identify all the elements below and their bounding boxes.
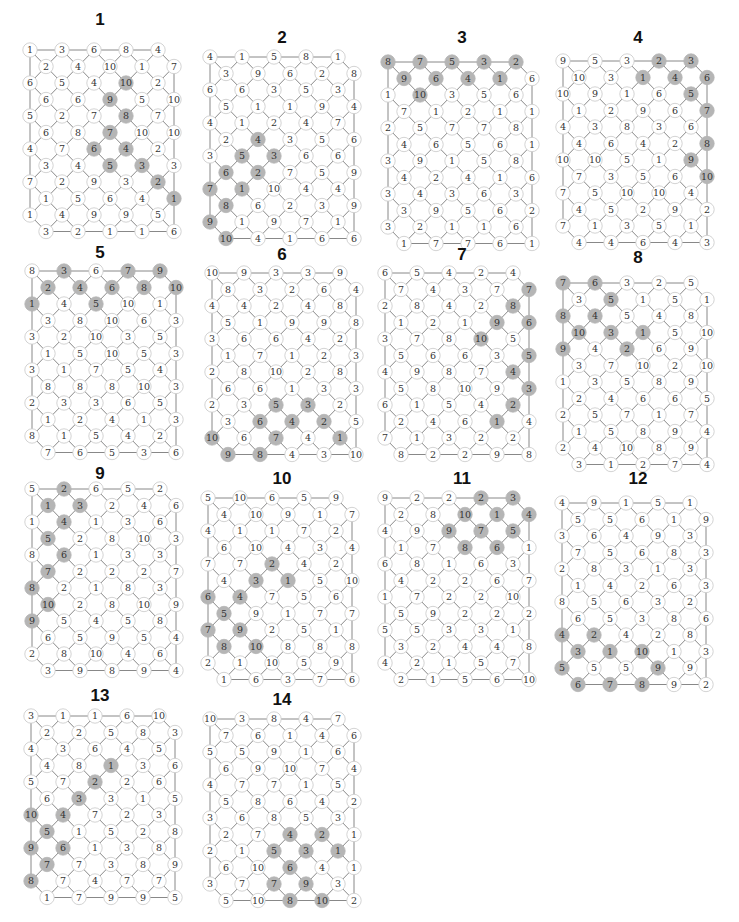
node-number: 4 [351, 763, 357, 774]
grid-node[interactable]: 6 [219, 860, 233, 874]
grid-node[interactable]: 1 [299, 745, 313, 759]
node-number: 1 [335, 845, 341, 856]
node-number: 8 [271, 812, 277, 823]
node-number: 5 [271, 845, 277, 856]
node-number: 10 [252, 895, 264, 906]
grid-node[interactable]: 3 [203, 811, 217, 825]
grid-node[interactable]: 3 [331, 877, 345, 891]
grid-node[interactable]: 8 [251, 794, 265, 808]
grid-node[interactable]: 9 [267, 745, 281, 759]
path-node-shaded[interactable]: 4 [283, 827, 297, 841]
grid-node[interactable]: 1 [347, 860, 361, 874]
grid-node[interactable]: 3 [331, 811, 345, 825]
grid-node[interactable]: 7 [331, 712, 345, 726]
puzzle-grid: 1038477614655916691074477155864236853274… [0, 0, 739, 922]
grid-node[interactable]: 1 [235, 844, 249, 858]
node-number: 2 [223, 829, 229, 840]
node-number: 8 [255, 796, 261, 807]
grid-node[interactable]: 10 [251, 860, 265, 874]
grid-node[interactable]: 6 [331, 745, 345, 759]
node-number: 6 [223, 862, 229, 873]
grid-node[interactable]: 6 [235, 811, 249, 825]
grid-node[interactable]: 1 [347, 827, 361, 841]
grid-node[interactable]: 4 [347, 761, 361, 775]
node-number: 5 [223, 895, 229, 906]
node-number: 6 [335, 746, 341, 757]
grid-node[interactable]: 3 [235, 712, 249, 726]
node-number: 1 [351, 862, 357, 873]
path-node-shaded[interactable]: 10 [315, 893, 329, 907]
grid-node[interactable]: 5 [331, 778, 345, 792]
grid-node[interactable]: 8 [267, 712, 281, 726]
grid-node[interactable]: 4 [315, 794, 329, 808]
node-number: 3 [207, 812, 213, 823]
path-node-shaded[interactable]: 7 [267, 877, 281, 891]
grid-node[interactable]: 6 [251, 728, 265, 742]
node-number: 7 [239, 878, 245, 889]
path-node-shaded[interactable]: 3 [299, 844, 313, 858]
node-number: 2 [319, 829, 325, 840]
node-number: 7 [271, 779, 277, 790]
grid-node[interactable]: 6 [219, 761, 233, 775]
node-number: 6 [351, 730, 357, 741]
grid-node[interactable]: 7 [235, 877, 249, 891]
grid-node[interactable]: 7 [219, 728, 233, 742]
grid-node[interactable]: 5 [219, 794, 233, 808]
grid-node[interactable]: 6 [283, 794, 297, 808]
node-number: 1 [303, 779, 309, 790]
node-number: 9 [255, 763, 261, 774]
node-number: 3 [239, 713, 245, 724]
node-number: 5 [239, 746, 245, 757]
grid-node[interactable]: 5 [299, 811, 313, 825]
node-number: 4 [207, 779, 213, 790]
grid-edges [210, 719, 354, 901]
grid-node[interactable]: 7 [267, 778, 281, 792]
path-node-shaded[interactable]: 9 [299, 877, 313, 891]
node-number: 4 [287, 829, 293, 840]
node-number: 7 [271, 878, 277, 889]
grid-node[interactable]: 4 [299, 712, 313, 726]
node-number: 10 [204, 713, 216, 724]
node-number: 1 [239, 845, 245, 856]
grid-node[interactable]: 5 [235, 745, 249, 759]
grid-node[interactable]: 10 [251, 893, 265, 907]
node-number: 6 [239, 812, 245, 823]
node-number: 7 [335, 713, 341, 724]
grid-node[interactable]: 2 [219, 827, 233, 841]
node-number: 10 [316, 895, 328, 906]
node-number: 6 [255, 730, 261, 741]
grid-node[interactable]: 7 [315, 761, 329, 775]
grid-node[interactable]: 1 [283, 728, 297, 742]
grid-node[interactable]: 10 [203, 712, 217, 726]
grid-node[interactable]: 5 [219, 893, 233, 907]
node-number: 4 [319, 796, 325, 807]
node-number: 9 [303, 878, 309, 889]
node-number: 3 [207, 878, 213, 889]
grid-node[interactable]: 2 [203, 844, 217, 858]
grid-node[interactable]: 9 [251, 761, 265, 775]
path-node-shaded[interactable]: 5 [267, 844, 281, 858]
grid-node[interactable]: 4 [315, 728, 329, 742]
grid-node[interactable]: 6 [347, 728, 361, 742]
grid-node[interactable]: 2 [347, 893, 361, 907]
grid-node[interactable]: 7 [251, 827, 265, 841]
grid-node[interactable]: 10 [283, 761, 297, 775]
grid-node[interactable]: 5 [203, 745, 217, 759]
grid-node[interactable]: 4 [203, 778, 217, 792]
path-node-shaded[interactable]: 8 [283, 893, 297, 907]
node-number: 1 [287, 730, 293, 741]
grid-node[interactable]: 8 [267, 811, 281, 825]
grid-node[interactable]: 4 [315, 860, 329, 874]
node-number: 10 [252, 862, 264, 873]
grid-node[interactable]: 2 [347, 794, 361, 808]
path-node-shaded[interactable]: 2 [315, 827, 329, 841]
path-node-shaded[interactable]: 1 [331, 844, 345, 858]
node-number: 3 [335, 878, 341, 889]
node-number: 1 [351, 829, 357, 840]
grid-node[interactable]: 7 [235, 778, 249, 792]
grid-node[interactable]: 3 [203, 877, 217, 891]
node-number: 6 [287, 796, 293, 807]
node-number: 4 [319, 730, 325, 741]
path-node-shaded[interactable]: 6 [283, 860, 297, 874]
grid-node[interactable]: 1 [299, 778, 313, 792]
